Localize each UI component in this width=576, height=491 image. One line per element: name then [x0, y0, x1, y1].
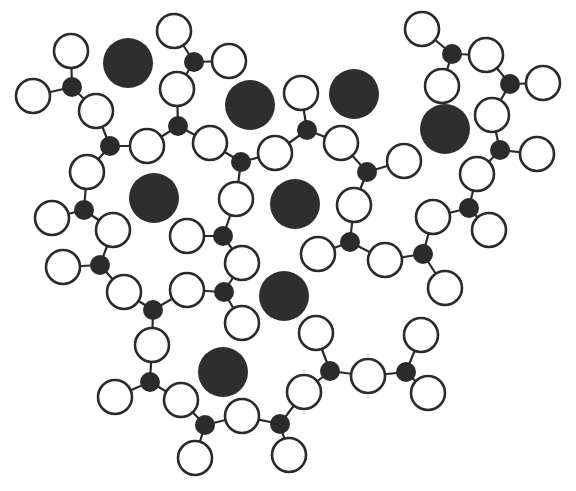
open-atom — [54, 34, 88, 68]
open-atom — [46, 250, 80, 284]
open-atom — [324, 126, 358, 160]
center-atom — [442, 44, 462, 64]
center-atom — [90, 255, 110, 275]
center-atom — [297, 120, 317, 140]
center-atom — [270, 414, 290, 434]
open-atom — [130, 129, 164, 163]
open-atom — [219, 182, 253, 216]
cation-atom — [198, 347, 248, 397]
open-atom — [107, 275, 141, 309]
center-atom — [413, 244, 433, 264]
open-atom — [170, 219, 204, 253]
open-atom — [135, 328, 169, 362]
open-atom — [170, 273, 204, 307]
open-atom — [475, 98, 509, 132]
open-atom — [164, 383, 198, 417]
cation-atom — [270, 179, 320, 229]
open-atom — [520, 137, 554, 171]
open-atom — [178, 441, 212, 475]
open-atom — [368, 243, 402, 277]
open-atom — [258, 136, 292, 170]
crystal-structure-diagram — [0, 0, 576, 491]
center-atom — [231, 152, 251, 172]
open-atom — [157, 14, 191, 48]
cation-atom — [420, 104, 470, 154]
cation-atom — [103, 38, 153, 88]
center-atom — [459, 198, 479, 218]
center-atom — [500, 74, 520, 94]
center-atom — [213, 226, 233, 246]
open-atom — [287, 375, 321, 409]
open-atom — [460, 157, 494, 191]
open-atom — [98, 380, 132, 414]
open-atom — [96, 213, 130, 247]
center-atom — [340, 232, 360, 252]
open-atom — [225, 246, 259, 280]
open-atom — [416, 200, 450, 234]
open-atom — [299, 316, 333, 350]
open-atom — [472, 213, 506, 247]
open-atom-layer — [16, 12, 560, 475]
center-atom — [143, 300, 163, 320]
open-atom — [225, 399, 259, 433]
center-atom — [357, 162, 377, 182]
center-atom — [140, 372, 160, 392]
open-atom — [411, 376, 445, 410]
open-atom — [428, 271, 462, 305]
open-atom — [405, 12, 439, 46]
open-atom — [404, 318, 438, 352]
open-atom — [79, 94, 113, 128]
open-atom — [193, 126, 227, 160]
cation-atom — [259, 271, 309, 321]
open-atom — [337, 188, 371, 222]
cation-atom — [129, 173, 179, 223]
cation-atom — [329, 69, 379, 119]
open-atom — [351, 359, 385, 393]
center-atom — [100, 136, 120, 156]
center-atom — [396, 362, 416, 382]
center-atom — [195, 415, 215, 435]
structure-canvas — [0, 0, 576, 491]
cation-atom — [225, 80, 275, 130]
center-atom — [320, 361, 340, 381]
center-atom — [168, 116, 188, 136]
open-atom — [16, 79, 50, 113]
open-atom — [469, 38, 503, 72]
open-atom — [160, 72, 194, 106]
open-atom — [425, 69, 459, 103]
center-atom — [490, 140, 510, 160]
center-atom — [74, 200, 94, 220]
center-atom — [214, 282, 234, 302]
open-atom — [284, 76, 318, 110]
center-atom — [184, 52, 204, 72]
open-atom — [70, 155, 104, 189]
open-atom — [225, 306, 259, 340]
open-atom — [526, 66, 560, 100]
open-atom — [212, 44, 246, 78]
open-atom — [387, 144, 421, 178]
open-atom — [272, 438, 306, 472]
open-atom — [301, 237, 335, 271]
center-atom — [62, 77, 82, 97]
open-atom — [35, 201, 69, 235]
